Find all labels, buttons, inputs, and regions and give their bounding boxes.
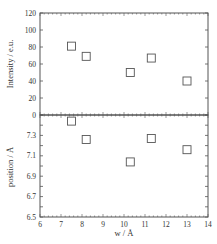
- top-data-point: [126, 69, 134, 77]
- top-panel-frame: [40, 13, 208, 115]
- x-tick-label: 8: [80, 220, 84, 229]
- x-tick-label: 13: [183, 220, 191, 229]
- top-y-tick-label: 0: [32, 111, 36, 120]
- bottom-data-point: [183, 146, 191, 154]
- top-data-point: [68, 42, 76, 50]
- ticks: [40, 13, 208, 217]
- bottom-data-point: [147, 134, 155, 142]
- figure: 678910111213140204060801001206.56.76.97.…: [0, 0, 217, 244]
- top-y-tick-label: 20: [29, 94, 37, 103]
- bottom-y-tick-label: 7.1: [27, 151, 37, 160]
- bottom-data-point: [82, 135, 90, 143]
- top-y-tick-label: 40: [29, 77, 37, 86]
- data-markers: [68, 42, 192, 166]
- bottom-data-point: [126, 158, 134, 166]
- bottom-y-tick-label: 6.9: [27, 172, 37, 181]
- bottom-y-axis-title: position / Å: [5, 146, 15, 187]
- x-tick-label: 14: [204, 220, 212, 229]
- top-y-tick-label: 100: [25, 26, 37, 35]
- top-y-tick-label: 60: [29, 60, 37, 69]
- x-axis-title: w / Å: [115, 228, 135, 238]
- bottom-panel-frame: [40, 115, 208, 217]
- x-tick-label: 11: [141, 220, 148, 229]
- bottom-data-point: [68, 117, 76, 125]
- x-tick-label: 6: [38, 220, 42, 229]
- bottom-y-tick-label: 6.5: [27, 213, 37, 222]
- top-data-point: [147, 54, 155, 62]
- x-tick-label: 7: [59, 220, 63, 229]
- bottom-y-tick-label: 7.3: [27, 131, 37, 140]
- top-data-point: [82, 52, 90, 60]
- top-y-tick-label: 80: [29, 43, 37, 52]
- x-tick-label: 9: [101, 220, 105, 229]
- x-tick-label: 12: [162, 220, 170, 229]
- top-data-point: [183, 77, 191, 85]
- top-y-axis-title: Intensity / e.u.: [5, 40, 15, 89]
- tick-labels: 678910111213140204060801001206.56.76.97.…: [25, 9, 212, 230]
- bottom-y-tick-label: 6.7: [27, 192, 37, 201]
- top-y-tick-label: 120: [25, 9, 37, 18]
